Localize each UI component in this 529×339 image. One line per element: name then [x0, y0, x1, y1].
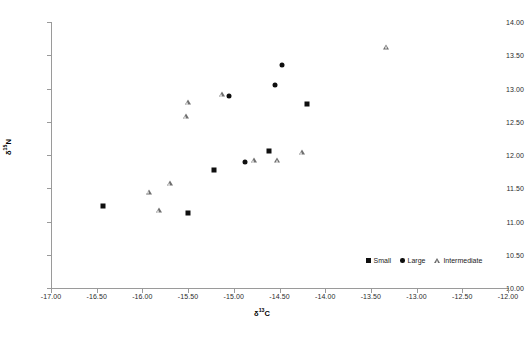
y-tick-label: 12.00 [482, 152, 524, 159]
y-tick-mark [47, 89, 51, 90]
circle-marker-icon [400, 258, 405, 263]
data-point-small [211, 168, 216, 173]
data-point-large [242, 160, 247, 165]
x-tick-label: -13.00 [394, 293, 440, 300]
x-tick-label: -15.50 [165, 293, 211, 300]
x-tick-label: -12.00 [485, 293, 529, 300]
data-point-intermediate [251, 158, 257, 163]
x-tick-label: -15.00 [211, 293, 257, 300]
y-tick-label: 11.50 [482, 185, 524, 192]
data-point-intermediate [219, 92, 225, 97]
y-tick-label: 13.00 [482, 85, 524, 92]
y-tick-label: 12.50 [482, 118, 524, 125]
x-tick-label: -14.50 [257, 293, 303, 300]
legend-entry-small[interactable]: Small [366, 257, 391, 264]
y-tick-mark [47, 22, 51, 23]
data-point-small [101, 204, 106, 209]
plot-area [51, 22, 508, 288]
y-axis-title-element: N [4, 139, 13, 144]
triangle-marker-icon [434, 258, 440, 263]
legend-entry-large[interactable]: Large [400, 257, 425, 264]
data-point-small [304, 102, 309, 107]
data-point-intermediate [299, 150, 305, 155]
y-tick-mark [47, 122, 51, 123]
y-tick-label: 10.00 [482, 285, 524, 292]
y-tick-label: 11.00 [482, 218, 524, 225]
x-tick-label: -16.00 [119, 293, 165, 300]
y-tick-label: 10.50 [482, 251, 524, 258]
x-tick-label: -16.50 [74, 293, 120, 300]
y-tick-label: 13.50 [482, 52, 524, 59]
y-tick-mark [47, 55, 51, 56]
legend-label: Large [408, 257, 426, 264]
x-tick-label: -13.50 [348, 293, 394, 300]
data-point-intermediate [167, 180, 173, 185]
legend-label: Intermediate [443, 257, 482, 264]
y-tick-mark [47, 155, 51, 156]
y-axis-line [51, 22, 52, 289]
y-tick-mark [47, 255, 51, 256]
data-point-large [280, 63, 285, 68]
data-point-intermediate [185, 99, 191, 104]
data-point-large [227, 94, 232, 99]
y-axis-title: δ15N [2, 139, 13, 155]
x-axis-title-element: C [264, 309, 269, 318]
square-marker-icon [366, 258, 371, 263]
x-tick-label: -12.50 [439, 293, 485, 300]
legend-label: Small [374, 257, 392, 264]
y-axis-title-superscript: 15 [2, 145, 8, 151]
x-tick-label: -14.00 [302, 293, 348, 300]
data-point-intermediate [183, 114, 189, 119]
y-tick-mark [47, 222, 51, 223]
data-point-intermediate [275, 157, 281, 162]
data-point-intermediate [383, 44, 389, 49]
data-point-large [272, 82, 277, 87]
y-tick-label: 14.00 [482, 19, 524, 26]
legend-entry-intermediate[interactable]: Intermediate [434, 257, 482, 264]
y-axis-title-symbol: δ [4, 150, 13, 155]
y-tick-mark [47, 188, 51, 189]
x-tick-label: -17.00 [28, 293, 74, 300]
data-point-intermediate [146, 189, 152, 194]
data-point-intermediate [156, 208, 162, 213]
chart-legend: SmallLargeIntermediate [366, 257, 482, 264]
data-point-small [186, 210, 191, 215]
x-axis-title: δ13C [0, 307, 524, 318]
data-point-small [266, 149, 271, 154]
